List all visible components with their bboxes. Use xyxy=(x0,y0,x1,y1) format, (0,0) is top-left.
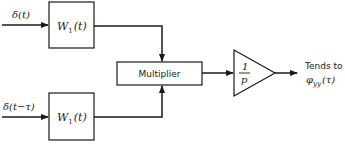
input-delta-t: δ(t) xyxy=(2,9,48,25)
input-delta-t-minus-tau: δ(t−τ) xyxy=(2,101,48,117)
integrator-block: 1 p xyxy=(234,50,275,96)
filter-block-bottom: W1(t) xyxy=(49,93,94,140)
connector-bottom-to-multiplier xyxy=(94,86,162,117)
integrator-numerator: 1 xyxy=(242,61,248,72)
multiplier-label: Multiplier xyxy=(139,69,181,79)
filter-block-top: W1(t) xyxy=(49,2,94,48)
filter-box-bottom xyxy=(49,93,94,140)
multiplier-block: Multiplier xyxy=(117,62,202,85)
integrator-denominator: p xyxy=(241,74,248,85)
filter-box-top xyxy=(49,2,94,48)
connector-top-to-multiplier xyxy=(94,26,162,61)
input-label-bottom: δ(t−τ) xyxy=(3,101,35,112)
block-diagram: δ(t) W1(t) δ(t−τ) W1(t) Multiplier 1 p T… xyxy=(0,0,345,148)
input-label-top: δ(t) xyxy=(12,9,30,20)
output-line2: φyy(τ) xyxy=(306,74,335,88)
output-label: Tends to φyy(τ) xyxy=(304,61,343,88)
output-line1: Tends to xyxy=(304,61,343,71)
